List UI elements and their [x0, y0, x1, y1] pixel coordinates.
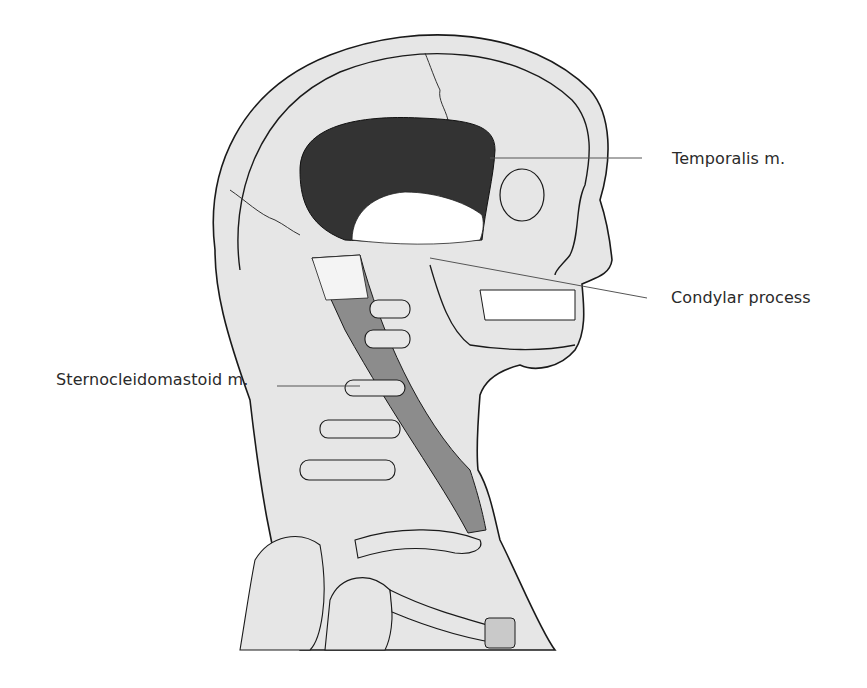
anatomy-illustration	[0, 0, 867, 688]
label-sternocleidomastoid: Sternocleidomastoid m.	[56, 370, 248, 389]
teeth	[480, 290, 575, 320]
label-condylar-process: Condylar process	[671, 288, 811, 307]
label-temporalis: Temporalis m.	[672, 149, 785, 168]
rib-cartilage	[485, 618, 515, 648]
orbit	[500, 169, 544, 221]
scapula	[240, 537, 324, 650]
